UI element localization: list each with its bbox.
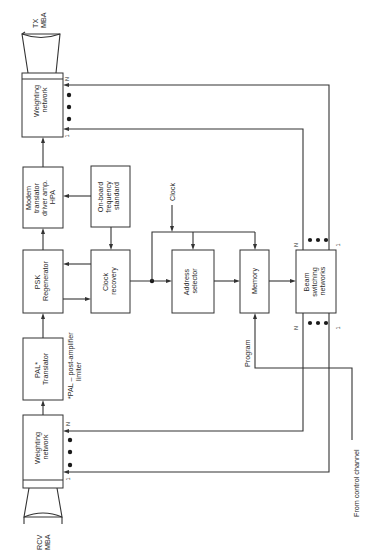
clock-recovery-block: Clock recovery	[91, 250, 130, 313]
port-ellipsis-dot	[67, 93, 71, 97]
frequency-standard-block: On-board frequency standard	[91, 166, 130, 227]
svg-text:On-board frequency: On-board frequency standard	[96, 179, 121, 213]
port-ellipsis-dot	[68, 438, 72, 442]
port-ellipsis-dot	[67, 117, 71, 121]
rcv-weighting-network-block: Weighting network	[23, 415, 63, 488]
memory-block: Memory	[240, 250, 269, 313]
control-channel-label: From control channel	[352, 449, 361, 517]
pal-footnote: *PAL – post-amplifier limiter	[66, 330, 83, 399]
bsn-bottom-port-1-label: 1	[335, 326, 341, 329]
bsn-top-port-n-label: N	[293, 243, 299, 247]
rcv-mba-antenna: RCV MBA	[24, 488, 62, 550]
svg-text:Memory: Memory	[250, 268, 259, 294]
psk-regenerator-block: PSK Regenerator	[23, 250, 63, 313]
tx-port-n-label: N	[64, 77, 70, 81]
rcv-port-1-label: 1	[65, 477, 71, 480]
tx-mba-antenna: TX MBA	[22, 12, 60, 73]
port-ellipsis-dot	[67, 105, 71, 109]
modem-translator-block: Modem translator driver amp. HPA	[23, 167, 63, 228]
satellite-switching-block-diagram: TX MBA Weighting network N 1 Modem trans…	[0, 0, 376, 553]
rcv-port-n-label: N	[65, 422, 71, 426]
rcv-mba-label: RCV MBA	[35, 533, 52, 550]
pal-translator-block: PAL* Translator	[23, 338, 63, 400]
port-ellipsis-dot	[68, 450, 72, 454]
tx-mba-label: TX MBA	[31, 12, 48, 28]
address-selector-block: Address selector	[172, 250, 214, 313]
port-ellipsis-dot	[68, 463, 72, 467]
svg-text:Weighting network: Weighting network	[33, 430, 50, 464]
bsn-top-port-1-label: 1	[335, 243, 341, 246]
svg-text:Weighting network: Weighting network	[32, 83, 49, 117]
program-label: Program	[243, 339, 252, 367]
clock-input-label: Clock	[168, 183, 177, 201]
bsn-bottom-port-n-label: N	[293, 326, 299, 330]
beam-switching-networks-block: Beam switching networks	[296, 250, 336, 313]
svg-text:Clock recovery: Clock recovery	[101, 267, 118, 295]
tx-weighting-network-block: Weighting network	[22, 73, 63, 137]
svg-text:Address selector: Address selector	[182, 267, 199, 295]
tx-port-1-label: 1	[64, 134, 70, 137]
